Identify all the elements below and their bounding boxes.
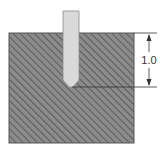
arrow-down-icon xyxy=(147,79,152,86)
drill-bit xyxy=(63,11,79,87)
diagram-canvas: 1.0 xyxy=(0,0,163,148)
depth-dimension: 1.0 xyxy=(141,34,156,86)
arrow-up-icon xyxy=(147,34,152,41)
dimension-label: 1.0 xyxy=(141,54,156,66)
